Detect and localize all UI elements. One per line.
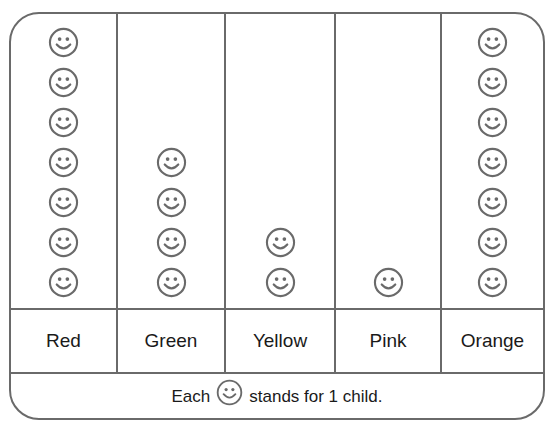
smiley-icon — [373, 267, 404, 298]
smiley-icon — [477, 187, 508, 218]
column-pink — [336, 14, 442, 308]
key-prefix: Each — [172, 387, 211, 407]
symbol-stack — [336, 267, 440, 298]
category-label: Green — [118, 310, 224, 372]
symbol-stack — [118, 147, 224, 298]
symbol-stack — [11, 27, 116, 298]
pictograph-frame: Red Green Yellow Pink Orange Each stands… — [9, 12, 545, 420]
smiley-icon — [156, 187, 187, 218]
symbol-stack — [442, 27, 543, 298]
legend-key: Each stands for 1 child. — [11, 374, 543, 420]
category-label: Orange — [442, 310, 543, 372]
column-red — [11, 14, 118, 308]
smiley-icon — [477, 27, 508, 58]
column-orange — [442, 14, 543, 308]
smiley-icon — [48, 267, 79, 298]
smiley-icon — [477, 147, 508, 178]
smiley-icon — [477, 267, 508, 298]
smiley-icon — [477, 227, 508, 258]
smiley-icon — [477, 67, 508, 98]
smiley-icon — [156, 227, 187, 258]
smiley-icon — [48, 107, 79, 138]
smiley-icon — [48, 187, 79, 218]
smiley-icon — [477, 107, 508, 138]
smiley-icon — [48, 147, 79, 178]
column-yellow — [226, 14, 336, 308]
category-label-row: Red Green Yellow Pink Orange — [11, 310, 543, 374]
smiley-icon — [265, 267, 296, 298]
category-label: Yellow — [226, 310, 334, 372]
smiley-icon — [216, 379, 243, 406]
key-suffix: stands for 1 child. — [249, 387, 382, 407]
smiley-icon — [156, 147, 187, 178]
smiley-icon — [265, 227, 296, 258]
category-label: Red — [11, 310, 116, 372]
smiley-icon — [48, 27, 79, 58]
symbol-stack — [226, 227, 334, 298]
category-label: Pink — [336, 310, 440, 372]
pictograph-plot-area — [11, 14, 543, 310]
smiley-icon — [48, 227, 79, 258]
smiley-icon — [48, 67, 79, 98]
smiley-icon — [156, 267, 187, 298]
column-green — [118, 14, 226, 308]
